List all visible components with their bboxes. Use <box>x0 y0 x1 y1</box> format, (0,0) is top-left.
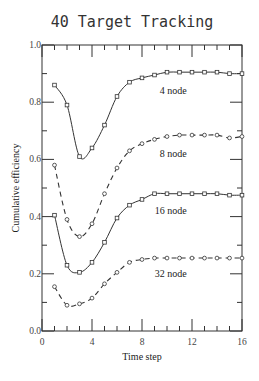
data-point <box>115 95 119 99</box>
data-point <box>190 133 194 137</box>
x-axis-label: Time step <box>122 351 161 362</box>
y-tick-label: 0.0 <box>29 326 41 336</box>
data-point <box>240 193 244 197</box>
data-point <box>128 80 132 84</box>
data-point <box>178 192 182 196</box>
series-label-16-node: 16 node <box>155 205 188 216</box>
data-point <box>203 256 207 260</box>
x-tick-label: 16 <box>237 337 247 347</box>
y-axis: 0.00.20.40.60.81.0 <box>29 40 242 336</box>
data-point <box>65 218 69 222</box>
y-axis-label: Cumulative efficiency <box>10 144 21 233</box>
y-tick-label: 0.6 <box>29 154 41 164</box>
data-point <box>203 70 207 74</box>
y-tick-label: 1.0 <box>29 40 41 50</box>
data-point <box>228 136 232 140</box>
data-point <box>90 146 94 150</box>
data-point <box>178 256 182 260</box>
series-label-4-node: 4 node <box>160 85 188 96</box>
data-point <box>203 133 207 137</box>
y-tick-label: 0.8 <box>29 97 41 107</box>
series-line-8-node <box>55 135 243 237</box>
data-point <box>128 203 132 207</box>
data-point <box>153 73 157 77</box>
data-point <box>190 192 194 196</box>
data-point <box>53 285 57 289</box>
data-point <box>140 76 144 80</box>
chart-title: 40 Target Tracking <box>51 13 214 31</box>
series-label-32-node: 32 node <box>155 268 188 279</box>
data-point <box>153 256 157 260</box>
data-point <box>65 263 69 267</box>
data-point <box>128 149 132 153</box>
data-point <box>78 235 82 239</box>
data-point <box>78 271 82 275</box>
data-point <box>115 216 119 220</box>
data-point <box>53 83 57 87</box>
series-group: 4 node8 node16 node32 node <box>53 70 244 307</box>
data-point <box>103 282 107 286</box>
data-point <box>228 193 232 197</box>
series-16-node: 16 node <box>53 192 244 274</box>
data-point <box>65 103 69 107</box>
data-point <box>90 296 94 300</box>
data-point <box>140 258 144 262</box>
data-point <box>115 166 119 170</box>
x-tick-label: 4 <box>90 337 95 347</box>
data-point <box>153 192 157 196</box>
series-line-32-node <box>55 258 243 306</box>
series-4-node: 4 node <box>53 70 244 159</box>
data-point <box>190 70 194 74</box>
x-tick-label: 8 <box>140 337 145 347</box>
data-point <box>203 192 207 196</box>
data-point <box>228 72 232 76</box>
data-point <box>65 303 69 307</box>
x-tick-label: 12 <box>187 337 197 347</box>
data-point <box>78 155 82 159</box>
data-point <box>178 70 182 74</box>
data-point <box>115 270 119 274</box>
series-8-node: 8 node <box>53 133 244 238</box>
data-point <box>165 70 169 74</box>
series-label-8-node: 8 node <box>160 148 188 159</box>
x-axis: 0481216 <box>40 45 247 347</box>
y-tick-label: 0.2 <box>29 269 41 279</box>
series-32-node: 32 node <box>53 256 244 307</box>
data-point <box>78 302 82 306</box>
x-tick-label: 0 <box>40 337 45 347</box>
data-point <box>215 70 219 74</box>
data-point <box>215 192 219 196</box>
y-tick-label: 0.4 <box>29 212 41 222</box>
data-point <box>240 256 244 260</box>
data-point <box>103 192 107 196</box>
series-line-4-node <box>55 72 243 159</box>
data-point <box>178 133 182 137</box>
data-point <box>140 142 144 146</box>
data-point <box>215 256 219 260</box>
data-point <box>165 192 169 196</box>
series-line-16-node <box>55 193 243 273</box>
data-point <box>140 198 144 202</box>
data-point <box>190 256 194 260</box>
data-point <box>128 260 132 264</box>
data-point <box>228 256 232 260</box>
data-point <box>240 72 244 76</box>
data-point <box>165 135 169 139</box>
plot-frame <box>42 45 242 331</box>
data-point <box>53 163 57 167</box>
data-point <box>215 133 219 137</box>
data-point <box>103 241 107 245</box>
data-point <box>53 213 57 217</box>
data-point <box>240 135 244 139</box>
data-point <box>103 123 107 127</box>
data-point <box>153 137 157 141</box>
data-point <box>165 256 169 260</box>
chart: 40 Target Tracking 0481216 0.00.20.40.60… <box>0 0 259 381</box>
data-point <box>90 222 94 226</box>
data-point <box>90 261 94 265</box>
